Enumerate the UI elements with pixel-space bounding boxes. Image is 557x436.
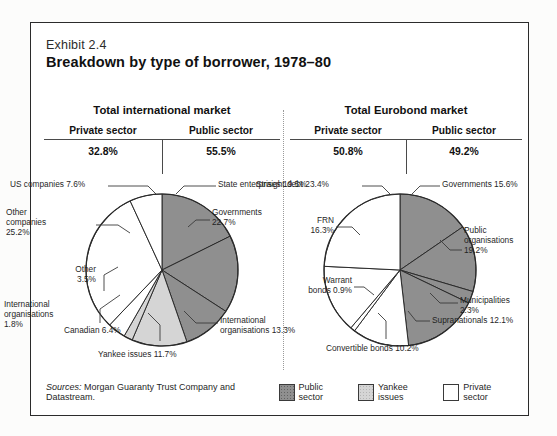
- panel-eurobond-market: Total Eurobond market Private sector Pub…: [290, 104, 522, 373]
- legend-swatch-private-icon: [443, 384, 459, 401]
- legend: Public sector Yankee issues Private sect…: [272, 382, 514, 402]
- sector-values-left: 32.8% 55.5%: [44, 140, 280, 157]
- label-us-companies: US companies 7.6%: [10, 179, 85, 189]
- panel-international-market: Total international market Private secto…: [44, 104, 280, 373]
- label-frn: FRN 16.3%: [272, 215, 334, 235]
- label-canadian: Canadian 6.4%: [64, 325, 121, 335]
- label-warrant-bonds: Warrant bonds 0.9%: [276, 275, 352, 295]
- label-yankee-issues: Yankee issues 11.7%: [98, 349, 177, 359]
- source-line: Sources: Morgan Guaranty Trust Company a…: [46, 382, 272, 402]
- legend-label-public-sector: Public sector: [299, 382, 347, 402]
- label-other: Other 3.5%: [30, 264, 96, 284]
- legend-label-private-sector: Private sector: [463, 382, 514, 402]
- footer: Sources: Morgan Guaranty Trust Company a…: [46, 382, 514, 402]
- legend-swatch-yankee-icon: [358, 384, 374, 401]
- panel-title-left: Total international market: [44, 104, 280, 116]
- header-private-left: Private sector: [44, 125, 162, 136]
- label-public-organisations: Public organisations 19.2%: [464, 225, 513, 255]
- panel-title-right: Total Eurobond market: [290, 104, 522, 116]
- legend-swatch-public-icon: [279, 384, 295, 401]
- label-other-companies: Other companies 25.2%: [6, 207, 46, 237]
- legend-item-yankee-issues: Yankee issues: [358, 382, 431, 402]
- label-convertible-bonds: Convertible bonds 10.2%: [326, 343, 419, 353]
- label-governments-euro: Governments 15.6%: [442, 179, 518, 189]
- pie-chart-eurobond: Straight debt 23.4% Governments 15.6% Pu…: [290, 163, 522, 373]
- exhibit-page: Exhibit 2.4 Breakdown by type of borrowe…: [0, 0, 557, 436]
- sector-header-left: Private sector Public sector: [44, 125, 280, 136]
- value-public-left: 55.5%: [162, 146, 280, 157]
- pie-svg-right: [290, 163, 522, 373]
- source-prefix: Sources:: [46, 382, 82, 392]
- label-governments: Governments 22.7%: [212, 207, 262, 227]
- label-supranationals: Supranationals 12.1%: [432, 315, 513, 325]
- sector-values-right: 50.8% 49.2%: [290, 140, 522, 157]
- exhibit-number: Exhibit 2.4: [46, 38, 107, 52]
- label-international-organisations-133: International organisations 13.3%: [220, 315, 295, 335]
- page-title: Breakdown by type of borrower, 1978–80: [46, 54, 331, 70]
- header-public-left: Public sector: [162, 125, 280, 136]
- label-municipalities: Municipalities 2.3%: [460, 295, 510, 315]
- label-straight-debt: Straight debt 23.4%: [256, 179, 329, 189]
- value-private-left: 32.8%: [44, 146, 162, 157]
- value-private-right: 50.8%: [290, 146, 406, 157]
- sector-header-right: Private sector Public sector: [290, 125, 522, 136]
- legend-label-yankee-issues: Yankee issues: [378, 382, 431, 402]
- pie-chart-international: US companies 7.6% State enterprises 19.5…: [44, 163, 280, 373]
- legend-item-private-sector: Private sector: [443, 382, 514, 402]
- label-international-organisations-18: International organisations 1.8%: [4, 299, 53, 329]
- header-private-right: Private sector: [290, 125, 406, 136]
- value-public-right: 49.2%: [406, 146, 522, 157]
- header-public-right: Public sector: [406, 125, 522, 136]
- slice-straight-debt: [324, 194, 400, 270]
- legend-item-public-sector: Public sector: [279, 382, 346, 402]
